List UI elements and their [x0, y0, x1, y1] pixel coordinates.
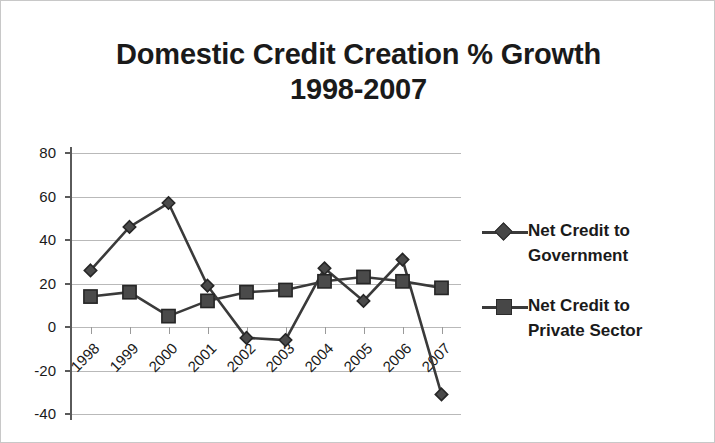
data-point-marker — [279, 334, 291, 346]
data-point-marker — [435, 388, 447, 400]
chart-legend: Net Credit to Government Net Credit to P… — [482, 219, 697, 370]
series-private-sector — [84, 270, 448, 322]
legend-label-line-2: Private Sector — [528, 321, 642, 340]
data-point-marker — [84, 290, 97, 303]
legend-entry-net-credit-to-private-sector: Net Credit to Private Sector — [482, 294, 697, 343]
data-point-marker — [357, 270, 370, 283]
y-axis-tick-label: -20 — [34, 361, 56, 378]
y-axis-tick-label: 60 — [39, 187, 56, 204]
data-point-marker — [396, 275, 409, 288]
legend-marker-diamond-icon — [482, 221, 528, 243]
gridline — [71, 414, 461, 415]
chart-title: Domestic Credit Creation % Growth 1998-2… — [31, 37, 686, 108]
chart-title-line-2: 1998-2007 — [31, 72, 686, 107]
y-axis-tick-label: 20 — [39, 274, 56, 291]
data-point-marker — [318, 275, 331, 288]
data-point-marker — [435, 281, 448, 294]
y-axis-tick-label: 40 — [39, 231, 56, 248]
legend-entry-net-credit-to-government: Net Credit to Government — [482, 219, 697, 268]
legend-label-line-1: Net Credit to — [528, 296, 630, 315]
series-line — [91, 203, 442, 394]
data-point-marker — [162, 197, 174, 209]
y-axis-tick-label: 80 — [39, 144, 56, 161]
data-point-marker — [279, 283, 292, 296]
legend-marker-square-icon — [482, 296, 528, 318]
series-line — [91, 277, 442, 316]
legend-label-line-2: Government — [528, 246, 628, 265]
legend-label-line-1: Net Credit to — [528, 221, 630, 240]
data-point-marker — [162, 310, 175, 323]
series-plot — [71, 153, 461, 414]
data-point-marker — [240, 286, 253, 299]
legend-label-net-credit-to-government: Net Credit to Government — [528, 219, 630, 268]
y-axis-tick-label: -40 — [34, 405, 56, 422]
y-axis-tick-label: 0 — [48, 318, 56, 335]
legend-label-net-credit-to-private-sector: Net Credit to Private Sector — [528, 294, 642, 343]
data-point-marker — [123, 286, 136, 299]
plot-area: 806040200-20-40 199819992000200120022003… — [71, 153, 461, 414]
chart-page: Domestic Credit Creation % Growth 1998-2… — [0, 0, 715, 443]
chart-title-line-1: Domestic Credit Creation % Growth — [116, 38, 601, 70]
data-point-marker — [201, 294, 214, 307]
